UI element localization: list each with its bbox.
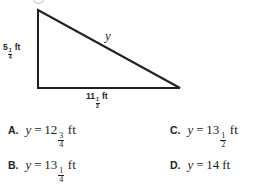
choice-c-expression: y=1312ft xyxy=(188,122,238,149)
choice-b-equals: = xyxy=(34,157,41,172)
base-denominator: 2 xyxy=(96,104,100,109)
choice-b-denominator: 4 xyxy=(58,176,64,184)
answer-choice-b[interactable]: B. y=1314ft xyxy=(8,157,76,184)
choice-d-letter: D. xyxy=(170,159,181,171)
choice-a-expression: y=1234ft xyxy=(26,122,76,149)
choice-b-unit: ft xyxy=(68,157,76,172)
base-mixed-number: 1112ft xyxy=(86,92,108,109)
choice-a-fraction: 34 xyxy=(58,132,64,149)
triangle-drawing xyxy=(0,0,267,110)
choice-b-fraction: 14 xyxy=(58,167,64,184)
choice-d-whole: 14 xyxy=(206,157,219,172)
choice-c-unit: ft xyxy=(230,122,238,137)
leg-unit: ft xyxy=(15,42,21,52)
leg-fraction: 14 xyxy=(8,48,12,60)
choice-a-whole: 12 xyxy=(44,122,57,137)
answer-choice-a[interactable]: A. y=1234ft xyxy=(8,122,76,149)
choice-b-whole: 13 xyxy=(44,157,57,172)
base-fraction: 12 xyxy=(96,97,100,109)
leg-mixed-number: 514ft xyxy=(3,43,20,60)
choice-c-numerator: 1 xyxy=(220,132,226,140)
leg-denominator: 4 xyxy=(8,55,12,60)
choice-a-variable: y xyxy=(26,122,32,137)
choice-b-value: 1314ft xyxy=(44,157,75,184)
choice-a-letter: A. xyxy=(8,124,19,136)
choice-a-unit: ft xyxy=(68,122,76,137)
base-whole: 11 xyxy=(86,91,95,101)
triangle-figure: 514ft y 1112ft xyxy=(0,0,267,110)
choice-c-whole: 13 xyxy=(206,122,219,137)
choice-c-value: 1312ft xyxy=(206,122,237,149)
choice-b-numerator: 1 xyxy=(58,167,64,175)
choice-c-letter: C. xyxy=(170,124,181,136)
choice-a-value: 1234ft xyxy=(44,122,75,149)
choice-b-variable: y xyxy=(26,157,32,172)
answer-choices: A. y=1234ft B. y=1314ft C. y=1312ft D. y… xyxy=(0,112,267,185)
base-unit: ft xyxy=(102,91,108,101)
leg-whole: 5 xyxy=(3,42,8,52)
leg-length-label: 514ft xyxy=(3,43,20,60)
choice-c-fraction: 12 xyxy=(220,132,226,149)
choice-d-unit: ft xyxy=(222,157,230,172)
hypotenuse-variable-label: y xyxy=(105,29,111,42)
choice-a-denominator: 4 xyxy=(58,141,64,149)
choice-c-variable: y xyxy=(188,122,194,137)
choice-d-expression: y=14ft xyxy=(188,157,231,173)
choice-d-equals: = xyxy=(196,157,203,172)
choice-b-expression: y=1314ft xyxy=(26,157,76,184)
right-triangle-outline xyxy=(38,10,180,88)
choice-c-denominator: 2 xyxy=(220,141,226,149)
choice-b-letter: B. xyxy=(8,159,19,171)
choice-c-equals: = xyxy=(196,122,203,137)
base-length-label: 1112ft xyxy=(86,92,108,109)
choice-a-numerator: 3 xyxy=(58,132,64,140)
answer-choice-d[interactable]: D. y=14ft xyxy=(170,157,230,173)
answer-choice-c[interactable]: C. y=1312ft xyxy=(170,122,238,149)
choice-d-variable: y xyxy=(188,157,194,172)
choice-d-value: 14ft xyxy=(206,157,230,173)
choice-a-equals: = xyxy=(34,122,41,137)
